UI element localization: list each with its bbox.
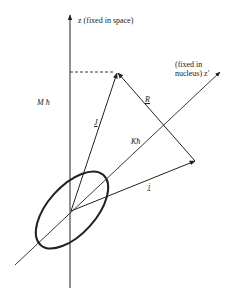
nucleus-ellipse: [23, 159, 122, 261]
j-vector: [71, 161, 195, 211]
K-hbar-label: Kħ: [131, 137, 140, 146]
j-vector-label: j: [148, 182, 150, 191]
R-vector-label: R: [145, 95, 150, 104]
z-axis-label: z (fixed in space): [78, 16, 133, 25]
R-vector: [118, 73, 195, 161]
z-prime-label-line1: (fixed in: [175, 60, 202, 69]
M-hbar-label: M ħ: [37, 98, 50, 107]
z-prime-label-line2: nucleus) z′: [175, 69, 209, 78]
angular-momentum-coupling-diagram: [0, 0, 234, 303]
J-vector-label: J: [94, 118, 98, 127]
